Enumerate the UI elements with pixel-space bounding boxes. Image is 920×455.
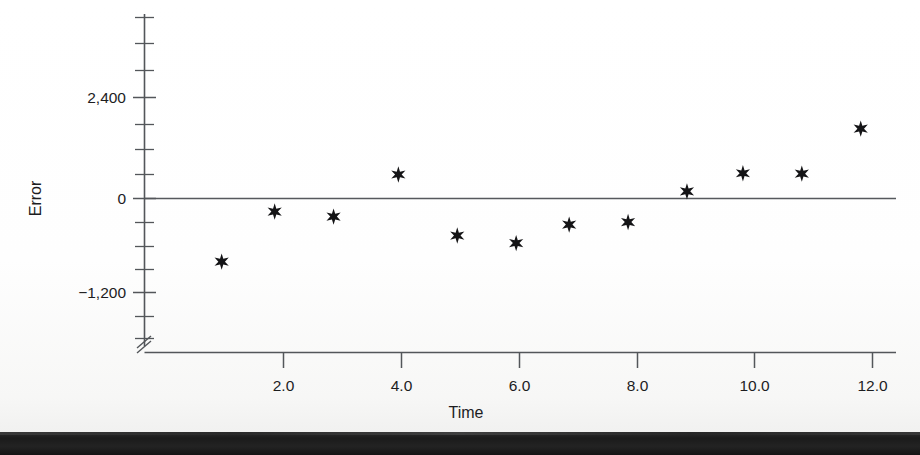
x-tick-label-2: 2.0 (273, 377, 295, 394)
x-tick-label-6: 6.0 (509, 377, 531, 394)
data-point (391, 166, 405, 182)
data-point (854, 120, 868, 136)
data-point (450, 227, 464, 243)
x-tick-label-4: 4.0 (391, 377, 413, 394)
data-point (215, 253, 229, 269)
data-point (562, 216, 576, 232)
data-point (268, 203, 282, 219)
data-point (795, 165, 809, 181)
data-point (680, 183, 694, 199)
scan-edge-band (0, 432, 920, 455)
y-tick-label-2400: 2,400 (87, 89, 126, 106)
x-tick-label-8: 8.0 (627, 377, 649, 394)
x-axis-ticks (284, 352, 873, 368)
y-tick-label-0: 0 (117, 190, 126, 207)
data-point (621, 214, 635, 230)
x-axis-title: Time (449, 404, 484, 421)
data-point (326, 208, 340, 224)
y-axis-title: Error (27, 180, 44, 216)
scatter-plot: 2,400 0 −1,200 2.0 4.0 6.0 8.0 10.0 12.0… (0, 0, 920, 432)
chart-figure: 2,400 0 −1,200 2.0 4.0 6.0 8.0 10.0 12.0… (0, 0, 920, 455)
data-point (509, 235, 523, 251)
data-point-markers (215, 120, 868, 269)
x-tick-label-12: 12.0 (857, 377, 888, 394)
data-point (736, 165, 750, 181)
x-tick-label-10: 10.0 (739, 377, 770, 394)
y-tick-label-neg1200: −1,200 (78, 284, 126, 301)
